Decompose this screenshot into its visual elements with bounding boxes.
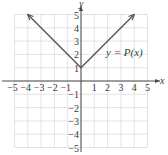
x-tick-label: 2 <box>105 82 110 93</box>
y-tick-label: −1 <box>68 89 79 100</box>
y-tick-label: 5 <box>74 10 79 21</box>
y-tick-label: 1 <box>74 63 79 74</box>
coordinate-plane: −5−4−3−2−11234554321−1−2−3−4−5 y = P(x) … <box>0 0 168 155</box>
x-axis-label: x <box>159 75 165 86</box>
x-tick-label: 1 <box>92 82 97 93</box>
y-tick-label: 4 <box>74 23 79 34</box>
y-tick-label: −3 <box>68 116 79 127</box>
x-tick-label: 4 <box>132 82 137 93</box>
function-label: y = P(x) <box>105 46 143 59</box>
x-tick-label: 3 <box>118 82 123 93</box>
x-tick-label: −5 <box>7 82 18 93</box>
y-axis-label: y <box>78 0 84 9</box>
y-tick-label: 3 <box>74 36 79 47</box>
y-tick-label: −4 <box>68 129 79 140</box>
x-tick-label: 5 <box>145 82 150 93</box>
y-tick-label: −2 <box>68 103 79 114</box>
x-tick-label: −2 <box>47 82 58 93</box>
y-tick-label: 2 <box>74 49 79 60</box>
y-tick-label: −5 <box>68 143 79 154</box>
x-tick-label: −3 <box>34 82 45 93</box>
x-tick-label: −4 <box>20 82 31 93</box>
